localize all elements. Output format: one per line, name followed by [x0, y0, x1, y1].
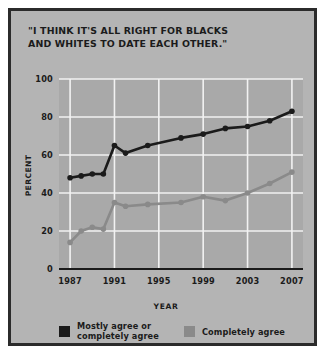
legend-item-label: Completely agree — [202, 327, 285, 337]
legend-item-label: Mostly agree or completely agree — [77, 321, 159, 341]
legend-swatch-icon — [184, 326, 195, 337]
x-tick-label: 1987 — [50, 276, 90, 286]
x-tick-label: 1995 — [139, 276, 179, 286]
legend-item-completely-agree: Completely agree — [184, 326, 285, 337]
y-axis-label: PERCENT — [24, 146, 33, 206]
y-tick-label: 20 — [27, 226, 53, 236]
y-tick-label: 0 — [27, 264, 53, 274]
x-tick-label: 1991 — [94, 276, 134, 286]
chart-figure: "I THINK IT'S ALL RIGHT FOR BLACKS AND W… — [8, 8, 317, 346]
legend-swatch-icon — [59, 326, 70, 337]
x-tick-label: 2003 — [228, 276, 268, 286]
y-tick-label: 80 — [27, 112, 53, 122]
x-axis-label: YEAR — [136, 302, 196, 311]
y-tick-label: 100 — [27, 74, 53, 84]
x-tick-label: 2007 — [272, 276, 312, 286]
plot-area: 020406080100 198719911995199920032007 PE… — [11, 11, 314, 343]
chart-canvas — [11, 11, 314, 343]
chart-legend: Mostly agree or completely agree Complet… — [11, 319, 314, 349]
legend-item-mostly-or-completely-agree: Mostly agree or completely agree — [59, 321, 159, 341]
x-tick-label: 1999 — [183, 276, 223, 286]
